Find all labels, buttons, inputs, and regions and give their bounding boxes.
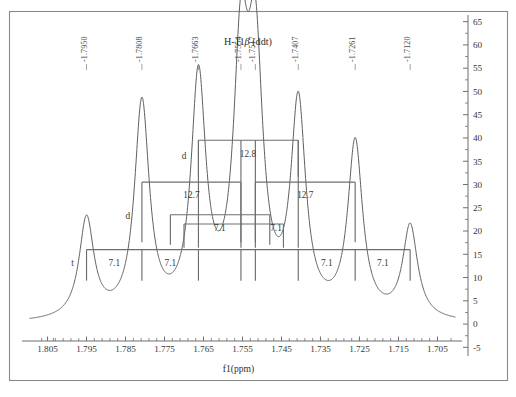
x-tick-label: 1.765 <box>193 344 214 354</box>
nmr-plot-svg: 1.8051.7951.7851.7751.7651.7551.7451.735… <box>0 0 516 397</box>
multiplicity-letter: d <box>126 211 131 221</box>
y-tick-label: 20 <box>473 226 483 236</box>
j-coupling-value: 12.7 <box>297 190 314 200</box>
x-tick-label: 1.735 <box>310 344 331 354</box>
multiplicity-letter: d <box>182 151 187 161</box>
y-tick-label: 25 <box>473 203 483 213</box>
x-axis-title: f1(ppm) <box>223 363 254 375</box>
j-coupling-value: 7.1 <box>108 258 120 268</box>
nmr-figure: 1.8051.7951.7851.7751.7651.7551.7451.735… <box>0 0 516 397</box>
x-tick-label: 1.795 <box>76 344 97 354</box>
peak-label: -1.7407 <box>291 36 300 62</box>
y-tick-label: 15 <box>473 250 483 260</box>
j-coupling-value: 7.1 <box>321 258 333 268</box>
y-tick-label: 0 <box>473 319 478 329</box>
x-tick-label: 1.805 <box>37 344 58 354</box>
y-tick-label: 10 <box>473 273 483 283</box>
annotation-group: H-11β (ddt)12.812.712.77.17.17.17.17.17.… <box>71 36 389 268</box>
j-coupling-value: 7.1 <box>270 223 282 233</box>
x-axis-group: 1.8051.7951.7851.7751.7651.7551.7451.735… <box>22 337 462 355</box>
j-coupling-value: 12.8 <box>240 149 257 159</box>
y-tick-label: -5 <box>473 343 481 353</box>
x-tick-label: 1.745 <box>271 344 292 354</box>
j-coupling-value: 7.1 <box>214 223 226 233</box>
x-tick-label: 1.785 <box>115 344 136 354</box>
y-tick-label: 50 <box>473 87 483 97</box>
multiplicity-letter: t <box>71 258 74 268</box>
assignment-label: H-11β (ddt) <box>224 36 272 48</box>
peak-label: -1.7950 <box>80 36 89 62</box>
y-axis-group: -505101520253035404550556065 <box>463 15 483 356</box>
j-coupling-value: 7.1 <box>377 258 389 268</box>
figure-border <box>10 12 508 381</box>
x-tick-label: 1.705 <box>427 344 448 354</box>
peak-label: -1.7120 <box>403 36 412 62</box>
y-tick-label: 60 <box>473 40 483 50</box>
peak-label: -1.7261 <box>348 36 357 62</box>
x-tick-label: 1.715 <box>388 344 409 354</box>
peak-label: -1.7808 <box>135 36 144 62</box>
j-coupling-value: 12.7 <box>183 190 200 200</box>
y-tick-label: 65 <box>473 17 483 27</box>
j-coupling-value: 7.1 <box>165 258 177 268</box>
y-tick-label: 5 <box>473 296 478 306</box>
y-tick-label: 40 <box>473 133 483 143</box>
coupling-tree-group <box>87 140 411 280</box>
y-tick-label: 30 <box>473 180 483 190</box>
y-tick-label: 35 <box>473 157 483 167</box>
x-tick-label: 1.725 <box>349 344 370 354</box>
y-tick-label: 45 <box>473 110 483 120</box>
peak-label: -1.7663 <box>191 36 200 62</box>
y-tick-label: 55 <box>473 63 483 73</box>
x-tick-label: 1.755 <box>232 344 253 354</box>
x-tick-label: 1.775 <box>154 344 175 354</box>
